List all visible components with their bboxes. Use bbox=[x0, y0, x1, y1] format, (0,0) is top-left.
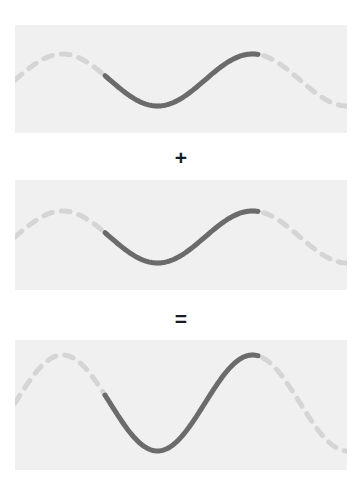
wave-plot-first bbox=[15, 25, 347, 133]
operator-equal: = bbox=[0, 308, 362, 329]
wave-plot-second bbox=[15, 180, 347, 290]
wave-plot-sum bbox=[15, 340, 347, 470]
wave-panel-second bbox=[15, 180, 347, 290]
wave-superposition-figure: + = bbox=[0, 0, 362, 478]
wave-panel-sum bbox=[15, 340, 347, 470]
wave-solid-path-sum bbox=[105, 355, 258, 451]
wave-solid-path-first bbox=[105, 54, 258, 106]
wave-panel-first bbox=[15, 25, 347, 133]
operator-plus: + bbox=[0, 147, 362, 168]
wave-solid-path-second bbox=[105, 211, 258, 263]
